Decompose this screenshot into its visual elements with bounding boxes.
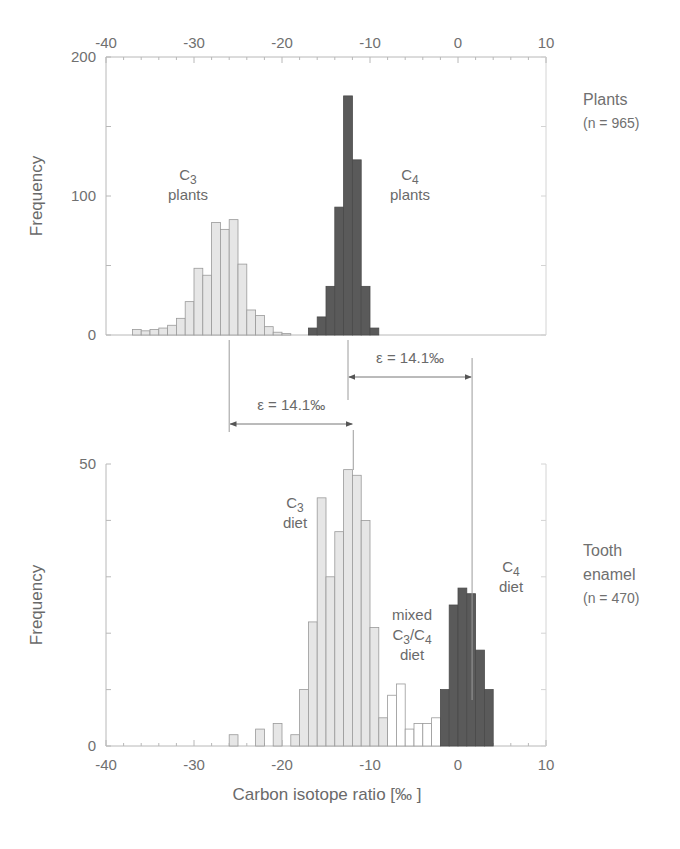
x-tick-label: -40 xyxy=(95,756,117,773)
histogram-bar xyxy=(159,328,168,335)
histogram-bar xyxy=(229,735,238,746)
histogram-bar xyxy=(361,286,370,335)
epsilon-label: ε = 14.1‰ xyxy=(376,349,444,366)
histogram-bar xyxy=(176,318,185,335)
histogram-bar xyxy=(458,588,467,746)
series-c4-diet xyxy=(440,588,493,746)
mixed-diet-label: mixedC3​/C4​diet xyxy=(392,606,432,663)
c4-plants-label-line: C4​ xyxy=(401,166,419,187)
histogram-bar xyxy=(308,622,317,746)
series-c4-plants xyxy=(308,96,378,335)
plants-n-label: (n = 965) xyxy=(583,115,639,131)
histogram-bar xyxy=(168,325,177,335)
x-tick-label: -20 xyxy=(271,34,293,51)
y-tick-label: 200 xyxy=(71,48,96,65)
histogram-bar xyxy=(256,316,265,335)
x-tick-label: -10 xyxy=(359,34,381,51)
histogram-bar xyxy=(273,332,282,335)
plants-side-label: Plants xyxy=(583,91,627,108)
x-tick-label: -40 xyxy=(95,34,117,51)
histogram-bar xyxy=(414,723,423,746)
c3-diet-label: C3​diet xyxy=(283,494,308,531)
tooth-enamel-panel: -40-30-20-10010050 xyxy=(79,455,554,773)
histogram-bar xyxy=(370,628,379,746)
histogram-bar xyxy=(388,695,397,746)
histogram-bar xyxy=(273,723,282,746)
histogram-bar xyxy=(335,532,344,746)
y-tick-label: 0 xyxy=(88,737,96,754)
histogram-bar xyxy=(256,729,265,746)
histogram-bar xyxy=(370,328,379,335)
histogram-bar xyxy=(484,690,493,746)
bottom-y-axis-title: Frequency xyxy=(27,564,46,645)
histogram-bar xyxy=(317,317,326,335)
histogram-bar xyxy=(476,650,485,746)
histogram-bar xyxy=(335,207,344,335)
c4-diet-label-line: diet xyxy=(499,578,524,595)
histogram-bar xyxy=(326,286,335,335)
histogram-bar xyxy=(291,735,300,746)
c4-plants-label-line: plants xyxy=(390,186,430,203)
mixed-diet-label-line: C3​/C4​ xyxy=(392,626,432,647)
histogram-bar xyxy=(203,275,212,335)
isotope-histogram-figure: -40-30-20-100100100200 -40-30-20-1001005… xyxy=(0,0,680,849)
x-tick-label: 10 xyxy=(538,756,555,773)
histogram-bar xyxy=(352,160,361,335)
histogram-bar xyxy=(264,327,273,335)
series-c3-plants xyxy=(132,220,290,335)
histogram-bar xyxy=(344,96,353,335)
x-tick-label: -30 xyxy=(183,34,205,51)
x-axis-title: Carbon isotope ratio [‰ ] xyxy=(233,785,422,804)
histogram-bar xyxy=(432,718,441,746)
histogram-bar xyxy=(238,264,247,335)
c3-plants-label-line: plants xyxy=(168,186,208,203)
tooth-n-label: (n = 470) xyxy=(583,590,639,606)
histogram-bar xyxy=(317,498,326,746)
y-tick-label: 0 xyxy=(88,326,96,343)
histogram-bar xyxy=(212,222,221,335)
histogram-bar xyxy=(344,470,353,746)
y-tick-label: 50 xyxy=(79,455,96,472)
histogram-bar xyxy=(440,690,449,746)
histogram-bar xyxy=(282,334,291,335)
histogram-bar xyxy=(308,328,317,335)
x-tick-label: 0 xyxy=(454,756,462,773)
tooth-side-label: Tooth xyxy=(583,542,622,559)
histogram-bar xyxy=(467,594,476,746)
histogram-bar xyxy=(326,577,335,746)
top-y-axis-title: Frequency xyxy=(27,155,46,236)
histogram-bar xyxy=(194,268,203,335)
epsilon-label: ε = 14.1‰ xyxy=(257,396,325,413)
x-tick-label: 10 xyxy=(538,34,555,51)
series-c3-diet xyxy=(229,470,387,746)
histogram-bar xyxy=(220,229,229,335)
histogram-bar xyxy=(150,329,159,335)
mixed-diet-label-line: diet xyxy=(400,646,425,663)
x-tick-label: -30 xyxy=(183,756,205,773)
c3-diet-label-line: diet xyxy=(283,514,308,531)
histogram-bar xyxy=(449,605,458,746)
plants-panel: -40-30-20-100100100200 xyxy=(71,34,554,343)
histogram-bar xyxy=(379,718,388,746)
histogram-bar xyxy=(300,690,309,746)
c3-plants-label: C3​plants xyxy=(168,166,208,203)
histogram-bar xyxy=(132,329,141,335)
series-mixed-c3-c4-diet xyxy=(388,684,441,746)
histogram-bar xyxy=(423,723,432,746)
y-tick-label: 100 xyxy=(71,187,96,204)
c4-diet-label-line: C4​ xyxy=(502,558,520,579)
histogram-bar xyxy=(141,331,150,335)
c3-plants-label-line: C3​ xyxy=(179,166,197,187)
histogram-bar xyxy=(361,520,370,746)
x-tick-label: -10 xyxy=(359,756,381,773)
histogram-bar xyxy=(229,220,238,335)
c4-plants-label: C4​plants xyxy=(390,166,430,203)
histogram-bar xyxy=(185,302,194,335)
histogram-bar xyxy=(405,729,414,746)
histogram-bar xyxy=(396,684,405,746)
x-tick-label: -20 xyxy=(271,756,293,773)
histogram-bar xyxy=(247,310,256,335)
enamel-side-label: enamel xyxy=(583,566,635,583)
c3-diet-label-line: C3​ xyxy=(286,494,304,515)
x-tick-label: 0 xyxy=(454,34,462,51)
